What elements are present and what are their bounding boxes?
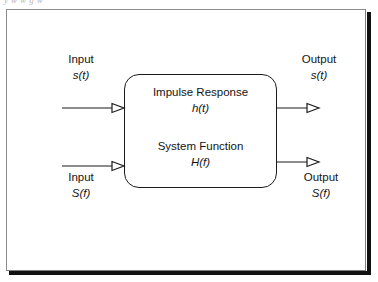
input-time-label: Input s(t) — [50, 52, 112, 83]
input-freq-name: Input — [50, 170, 112, 185]
output-time-label: Output s(t) — [288, 52, 350, 83]
system-function-label: System Function — [125, 139, 276, 154]
input-time-symbol: s(t) — [50, 67, 112, 83]
output-freq-label: Output S(f) — [290, 170, 352, 201]
system-block-time-domain: Impulse Response h(t) — [125, 85, 276, 116]
system-block-frequency-domain: System Function H(f) — [125, 139, 276, 170]
output-freq-symbol: S(f) — [290, 185, 352, 201]
output-time-arrow — [276, 103, 322, 113]
input-time-arrow — [62, 103, 126, 113]
figure-frame-shadow-right — [367, 12, 371, 274]
figure-frame-shadow-bottom — [9, 271, 371, 275]
input-freq-label: Input S(f) — [50, 170, 112, 201]
system-function-symbol: H(f) — [125, 154, 276, 170]
caption-remnant: y w w g w — [0, 0, 378, 7]
output-time-symbol: s(t) — [288, 67, 350, 83]
system-block: Impulse Response h(t) System Function H(… — [124, 74, 277, 188]
input-freq-symbol: S(f) — [50, 185, 112, 201]
impulse-response-symbol: h(t) — [125, 100, 276, 116]
input-time-name: Input — [50, 52, 112, 67]
output-time-name: Output — [288, 52, 350, 67]
output-freq-name: Output — [290, 170, 352, 185]
output-freq-arrow — [276, 157, 322, 167]
system-block-diagram: y w w g w Impulse Response h(t) System F… — [0, 0, 378, 282]
caption-remnant-text: y w w g w — [4, 0, 43, 5]
impulse-response-label: Impulse Response — [125, 85, 276, 100]
